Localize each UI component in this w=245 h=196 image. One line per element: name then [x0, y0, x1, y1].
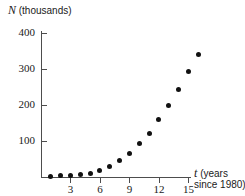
- x-axis-label: t (years since 1980): [194, 168, 245, 190]
- y-axis-tick: [42, 105, 47, 106]
- x-axis-unit-line2: since 1980): [194, 179, 245, 190]
- x-axis-unit-line1: (years: [200, 168, 228, 179]
- data-point: [68, 173, 73, 178]
- y-axis-tick-label: 200: [5, 99, 35, 110]
- data-point: [166, 103, 171, 108]
- y-axis-tick: [42, 33, 47, 34]
- scatter-plot-figure: N (thousands) 1002003004003691215 t (yea…: [0, 0, 245, 196]
- y-axis-tick: [42, 69, 47, 70]
- y-axis-tick-label: 100: [5, 135, 35, 146]
- data-point: [186, 69, 191, 74]
- x-axis-symbol: t: [194, 166, 197, 180]
- x-axis-tick-label: 3: [58, 184, 82, 195]
- data-point: [48, 174, 53, 179]
- plot-area: 1002003004003691215: [0, 0, 245, 196]
- data-point: [147, 131, 152, 136]
- data-point: [97, 168, 102, 173]
- data-point: [127, 151, 132, 156]
- data-point: [176, 87, 181, 92]
- data-point: [88, 171, 93, 176]
- x-axis-tick-label: 6: [88, 184, 112, 195]
- data-point: [107, 164, 112, 169]
- y-axis-tick-label: 300: [5, 63, 35, 74]
- x-axis-tick-label: 12: [147, 184, 171, 195]
- y-axis-tick-label: 400: [5, 27, 35, 38]
- data-point: [137, 141, 142, 146]
- y-axis-tick: [42, 141, 47, 142]
- x-axis-line: [41, 177, 191, 178]
- data-point: [117, 158, 122, 163]
- data-point: [156, 117, 161, 122]
- x-axis-tick-label: 9: [117, 184, 141, 195]
- data-point: [196, 52, 201, 57]
